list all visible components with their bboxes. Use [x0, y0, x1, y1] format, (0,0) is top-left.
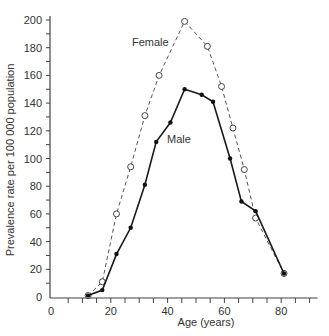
prevalence-line-chart: 020406080100120140160180200020406080 Fem… — [0, 0, 329, 336]
male-data-point — [211, 100, 215, 104]
male-data-point — [168, 120, 172, 124]
female-data-point — [128, 164, 134, 170]
y-tick-label: 80 — [30, 180, 42, 192]
series-male — [86, 87, 286, 298]
male-data-point — [253, 209, 257, 213]
y-tick-label: 60 — [30, 208, 42, 220]
axes: 020406080100120140160180200020406080 — [24, 14, 318, 317]
y-tick-label: 20 — [30, 263, 42, 275]
y-tick-label: 200 — [24, 14, 42, 26]
y-tick-label: 140 — [24, 97, 42, 109]
y-tick-label: 0 — [36, 291, 42, 303]
male-data-point — [228, 156, 232, 160]
y-tick-label: 160 — [24, 69, 42, 81]
female-data-point — [230, 125, 236, 131]
y-tick-label: 180 — [24, 42, 42, 54]
female-data-point — [241, 167, 247, 173]
y-tick-label: 120 — [24, 125, 42, 137]
female-data-point — [219, 83, 225, 89]
female-data-point — [156, 72, 162, 78]
male-data-point — [199, 93, 203, 97]
male-line — [88, 89, 284, 295]
x-tick-label: 0 — [48, 305, 54, 317]
y-axis-title: Prevalence rate per 100 000 population — [4, 64, 16, 257]
male-data-point — [282, 271, 286, 275]
male-data-point — [100, 288, 104, 292]
male-data-point — [182, 87, 186, 91]
x-tick-label: 20 — [105, 305, 117, 317]
female-data-point — [182, 18, 188, 24]
female-data-point — [142, 113, 148, 119]
x-tick-label: 80 — [275, 305, 287, 317]
male-data-point — [143, 183, 147, 187]
male-data-point — [154, 140, 158, 144]
series-layer — [85, 18, 287, 298]
male-data-point — [114, 252, 118, 256]
female-data-point — [113, 211, 119, 217]
male-data-point — [86, 293, 90, 297]
female-series-label: Female — [132, 36, 169, 48]
female-data-point — [204, 43, 210, 49]
male-data-point — [239, 199, 243, 203]
x-tick-label: 40 — [161, 305, 173, 317]
x-axis-title: Age (years) — [178, 316, 235, 328]
male-data-point — [128, 226, 132, 230]
y-tick-label: 100 — [24, 153, 42, 165]
male-series-label: Male — [167, 133, 191, 145]
y-tick-label: 40 — [30, 236, 42, 248]
